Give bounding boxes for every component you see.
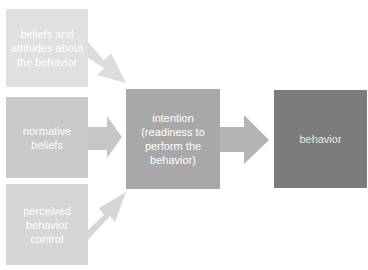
arrow-intention-to-behavior <box>220 115 269 164</box>
box-intention-label: intention (readiness to perform the beha… <box>141 111 205 167</box>
box-perceived-control-label: perceived behavior control <box>23 204 71 246</box>
arrow-control-to-intention <box>88 192 126 240</box>
arrow-beliefs-to-intention <box>88 42 126 83</box>
box-behavior-label: behavior <box>299 132 341 146</box>
box-normative-beliefs: normative beliefs <box>6 97 88 178</box>
box-behavior: behavior <box>274 90 367 188</box>
box-beliefs-attitudes: beliefs and attitudes about the behavior <box>6 9 88 87</box>
box-perceived-control: perceived behavior control <box>6 184 88 265</box>
box-intention: intention (readiness to perform the beha… <box>126 89 220 189</box>
box-normative-beliefs-label: normative beliefs <box>23 124 71 152</box>
arrow-normative-to-intention <box>88 116 122 158</box>
box-beliefs-attitudes-label: beliefs and attitudes about the behavior <box>11 27 83 69</box>
